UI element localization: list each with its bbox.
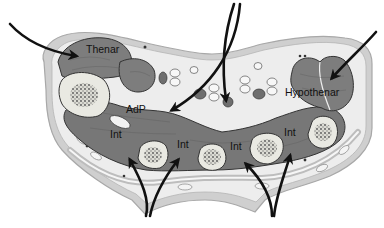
label-int-4: Int <box>284 126 296 138</box>
label-thenar: Thenar <box>86 43 120 55</box>
second-metacarpal <box>138 141 168 169</box>
label-adp: AdP <box>126 103 146 115</box>
label-int-3: Int <box>230 140 242 152</box>
third-metacarpal <box>198 144 226 170</box>
hand-cross-section-diagram: Thenar AdP Hypothenar Int Int Int Int <box>0 0 384 228</box>
label-hypothenar: Hypothenar <box>285 86 340 98</box>
fourth-metacarpal <box>250 133 283 164</box>
fifth-metacarpal <box>308 116 338 148</box>
label-int-1: Int <box>110 128 122 140</box>
label-int-2: Int <box>177 138 189 150</box>
